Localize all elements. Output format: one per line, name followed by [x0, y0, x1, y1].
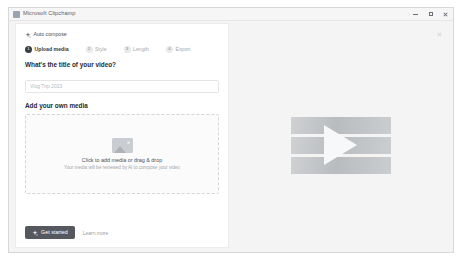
step-number: 4 — [166, 46, 173, 53]
video-preview[interactable] — [291, 117, 391, 174]
sparkle-icon — [25, 32, 31, 38]
step-number: 1 — [25, 46, 32, 53]
step-label: Style — [95, 47, 107, 52]
maximize-button[interactable] — [423, 8, 438, 21]
stepper-step-length[interactable]: 3 Length — [124, 46, 149, 53]
video-title-input[interactable] — [25, 80, 219, 93]
dropzone-subtitle: Your media will be reviewed by AI to com… — [64, 166, 180, 171]
auto-compose-panel: Auto compose 1 Upload media 2 Style 3 Le… — [15, 23, 229, 248]
step-label: Upload media — [35, 47, 69, 52]
step-number: 2 — [86, 46, 93, 53]
close-icon — [443, 12, 448, 17]
window-content: Auto compose 1 Upload media 2 Style 3 Le… — [9, 21, 453, 253]
get-started-label: Get started — [41, 230, 68, 235]
preview-panel — [233, 21, 453, 253]
get-started-button[interactable]: Get started — [25, 226, 75, 239]
panel-footer: Get started Learn more — [25, 226, 108, 239]
image-placeholder-icon — [112, 138, 133, 153]
minimize-button[interactable] — [408, 8, 423, 21]
stepper-step-style[interactable]: 2 Style — [86, 46, 107, 53]
stepper-step-upload-media[interactable]: 1 Upload media — [25, 46, 69, 53]
screenshot-root: Microsoft Clipchamp — [0, 0, 462, 261]
add-media-heading: Add your own media — [25, 103, 219, 109]
learn-more-link[interactable]: Learn more — [83, 230, 109, 236]
preview-close-button[interactable] — [435, 30, 444, 39]
media-dropzone[interactable]: Click to add media or drag & drop Your m… — [25, 114, 219, 194]
video-title-heading: What's the title of your video? — [25, 62, 219, 68]
auto-compose-link[interactable]: Auto compose — [25, 32, 219, 38]
window-title: Microsoft Clipchamp — [23, 11, 76, 17]
step-number: 3 — [124, 46, 131, 53]
stepper: 1 Upload media 2 Style 3 Length 4 Export — [25, 46, 219, 53]
maximize-icon — [429, 12, 433, 16]
play-triangle-icon — [324, 125, 357, 165]
stepper-step-export[interactable]: 4 Export — [166, 46, 191, 53]
sparkle-icon — [32, 230, 38, 236]
close-icon — [437, 32, 442, 37]
dropzone-title: Click to add media or drag & drop — [82, 158, 162, 163]
window-controls — [408, 8, 453, 20]
auto-compose-label: Auto compose — [34, 32, 67, 37]
close-button[interactable] — [438, 8, 453, 21]
title-bar: Microsoft Clipchamp — [9, 8, 453, 21]
minimize-icon — [413, 14, 418, 15]
clipchamp-icon — [13, 11, 20, 18]
app-window: Microsoft Clipchamp — [8, 7, 454, 253]
step-label: Length — [133, 47, 149, 52]
step-label: Export — [175, 47, 190, 52]
